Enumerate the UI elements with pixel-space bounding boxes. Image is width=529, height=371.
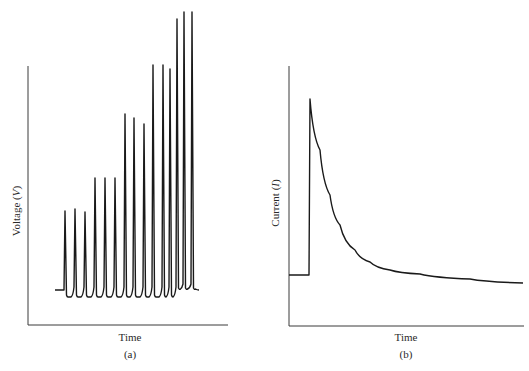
panel-caption: (b) xyxy=(376,348,436,360)
y-axis-label: Current (I) xyxy=(269,163,283,243)
x-axis-label: Time xyxy=(376,331,436,343)
y-axis-label: Voltage (V) xyxy=(10,166,24,256)
current-trace xyxy=(289,99,523,283)
x-axis-label: Time xyxy=(100,331,160,343)
voltage-trace xyxy=(55,12,199,297)
voltage-plot xyxy=(0,0,260,371)
current-plot xyxy=(260,0,529,371)
panel-caption: (a) xyxy=(100,348,160,360)
voltage-chart-panel: Voltage (V) Time (a) xyxy=(0,0,260,371)
current-chart-panel: Current (I) Time (b) xyxy=(260,0,529,371)
